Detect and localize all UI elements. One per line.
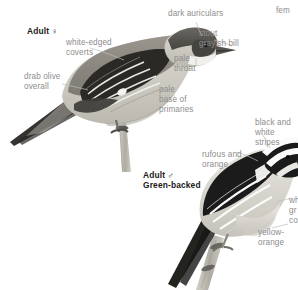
label-dark-auriculars: dark auriculars <box>168 9 223 19</box>
bird-illustration-artwork <box>0 0 298 290</box>
label-rufous-and-orange: rufous and orange <box>202 150 242 170</box>
label-pale-throat: pale throat <box>174 54 196 74</box>
label-black-and-white-stripes: black and white stripes <box>255 118 298 148</box>
label-pale-base-of-primaries: pale base of primaries <box>159 85 194 115</box>
label-white-edged-coverts: white-edged coverts <box>66 38 112 58</box>
label-yellow-orange: yellow- orange <box>258 228 284 248</box>
heading-adult-female: Adult ♀ <box>27 26 58 36</box>
partial-label-right-1: wh <box>289 196 298 206</box>
field-guide-plate: fem Adult ♀ white-edged coverts drab oli… <box>0 0 298 290</box>
partial-label-right-3: co <box>289 216 298 226</box>
label-stout-grayish-bill: stout grayish bill <box>199 29 239 49</box>
heading-adult-male-green-backed: Adult ♂ Green-backed <box>143 170 201 190</box>
label-drab-olive-overall: drab olive overall <box>24 72 61 92</box>
partial-label-right-2: gr <box>289 206 296 216</box>
partial-label-top-right: fem <box>276 6 290 16</box>
